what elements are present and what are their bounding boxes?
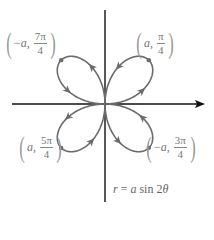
point-label-lower-right: ( −a, 3π4 ): [144, 132, 198, 162]
point-label-upper-right: ( a, π4 ): [134, 28, 176, 58]
point-label-upper-left: ( −a, 7π4 ): [4, 28, 58, 58]
petal-tip-dot: [147, 58, 151, 62]
petal-tip-dot: [59, 58, 63, 62]
equation-label: r = a sin 2θ: [113, 182, 168, 197]
point-label-lower-left: ( a, 5π4 ): [17, 132, 64, 162]
